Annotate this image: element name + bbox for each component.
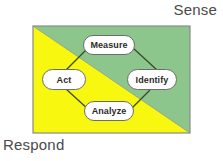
node-act-label: Act: [57, 75, 72, 85]
node-identify[interactable]: Identify: [127, 69, 177, 90]
sense-respond-diagram: Sense Measure Identify Analyze Act Respo…: [0, 0, 223, 161]
node-act[interactable]: Act: [42, 69, 86, 90]
node-analyze-label: Analyze: [92, 106, 127, 116]
node-measure[interactable]: Measure: [83, 35, 135, 55]
node-analyze[interactable]: Analyze: [84, 101, 134, 121]
node-measure-label: Measure: [90, 40, 127, 50]
respond-region-label: Respond: [3, 136, 64, 153]
node-identify-label: Identify: [136, 75, 169, 85]
